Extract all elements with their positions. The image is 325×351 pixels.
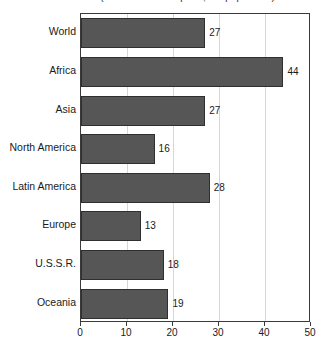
bar-chart-figure: (Number of births per 1,000 population) … (0, 0, 325, 351)
bar[interactable] (81, 211, 141, 241)
bar-row[interactable]: 19 (81, 289, 309, 319)
category-label: Europe (0, 219, 76, 230)
x-tick-10 (126, 322, 127, 326)
x-tick-30 (218, 322, 219, 326)
bars-group: 2744271628131819 (81, 14, 309, 321)
bar-value-label: 27 (209, 28, 220, 38)
x-tick-label: 50 (304, 328, 315, 338)
bar-row[interactable]: 27 (81, 96, 309, 126)
category-label: Asia (0, 104, 76, 115)
bar[interactable] (81, 173, 210, 203)
category-label: U.S.S.R. (0, 258, 76, 269)
bar-value-label: 13 (145, 221, 156, 231)
bar-row[interactable]: 44 (81, 57, 309, 87)
bar[interactable] (81, 96, 205, 126)
bar-row[interactable]: 28 (81, 173, 309, 203)
x-tick-label: 20 (166, 328, 177, 338)
category-label: World (0, 26, 76, 37)
bar-row[interactable]: 13 (81, 211, 309, 241)
category-label: North America (0, 142, 76, 153)
x-tick-20 (172, 322, 173, 326)
bar-value-label: 18 (168, 260, 179, 270)
x-tick-label: 0 (77, 328, 83, 338)
x-tick-label: 30 (212, 328, 223, 338)
category-axis-labels: WorldAfricaAsiaNorth AmericaLatin Americ… (0, 13, 76, 322)
bar[interactable] (81, 18, 205, 48)
category-label: Oceania (0, 297, 76, 308)
value-axis: 01020304050 (80, 322, 310, 344)
bar-row[interactable]: 18 (81, 250, 309, 280)
bar-row[interactable]: 27 (81, 18, 309, 48)
bar-value-label: 19 (172, 299, 183, 309)
bar-row[interactable]: 16 (81, 134, 309, 164)
bar[interactable] (81, 250, 164, 280)
x-tick-label: 10 (120, 328, 131, 338)
category-label: Africa (0, 65, 76, 76)
category-label: Latin America (0, 181, 76, 192)
bar-value-label: 28 (214, 183, 225, 193)
bar-value-label: 27 (209, 106, 220, 116)
x-tick-0 (80, 322, 81, 326)
bar-value-label: 16 (159, 144, 170, 154)
bar-value-label: 44 (287, 67, 298, 77)
x-tick-40 (264, 322, 265, 326)
x-tick-50 (310, 322, 311, 326)
bar[interactable] (81, 57, 283, 87)
chart-title: (Number of births per 1,000 population) (60, 0, 315, 2)
bar[interactable] (81, 289, 168, 319)
plot-area: 2744271628131819 (80, 13, 310, 322)
x-tick-label: 40 (258, 328, 269, 338)
bar[interactable] (81, 134, 155, 164)
